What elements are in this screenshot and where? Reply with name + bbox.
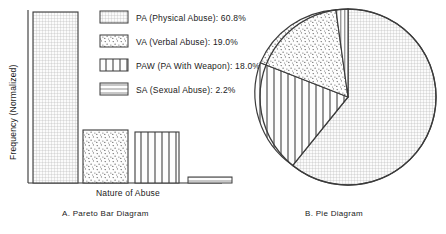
- legend-item-paw[interactable]: PAW (PA With Weapon): 18.0%: [100, 59, 260, 71]
- bar-pa: [33, 12, 78, 183]
- bar-x-axis-label: Nature of Abuse: [96, 188, 160, 198]
- legend-item-sa[interactable]: SA (Sexual Abuse): 2.2%: [100, 83, 236, 95]
- panel-a-caption: A. Pareto Bar Diagram: [62, 209, 149, 218]
- legend-swatch-paw: [100, 59, 128, 71]
- bar-paw: [135, 132, 179, 183]
- pie-chart-panel: [255, 9, 436, 185]
- bar-sa: [188, 177, 232, 183]
- figure-container: Frequency (Normalized) Nature of Abuse P…: [0, 0, 446, 234]
- legend-swatch-va: [100, 35, 128, 47]
- figure-svg: Frequency (Normalized) Nature of Abuse P…: [0, 0, 446, 234]
- panel-b-caption: B. Pie Diagram: [305, 209, 363, 218]
- legend-item-va[interactable]: VA (Verbal Abuse): 19.0%: [100, 35, 238, 47]
- bar-va: [83, 130, 128, 183]
- legend-label-sa: SA (Sexual Abuse): 2.2%: [136, 85, 236, 95]
- legend: PA (Physical Abuse): 60.8% VA (Verbal Ab…: [100, 11, 260, 95]
- legend-swatch-pa: [100, 11, 128, 23]
- legend-label-paw: PAW (PA With Weapon): 18.0%: [136, 61, 260, 71]
- legend-label-va: VA (Verbal Abuse): 19.0%: [136, 37, 238, 47]
- legend-swatch-sa: [100, 83, 128, 95]
- bar-y-axis-label: Frequency (Normalized): [8, 64, 18, 160]
- legend-item-pa[interactable]: PA (Physical Abuse): 60.8%: [100, 11, 246, 23]
- legend-label-pa: PA (Physical Abuse): 60.8%: [136, 13, 246, 23]
